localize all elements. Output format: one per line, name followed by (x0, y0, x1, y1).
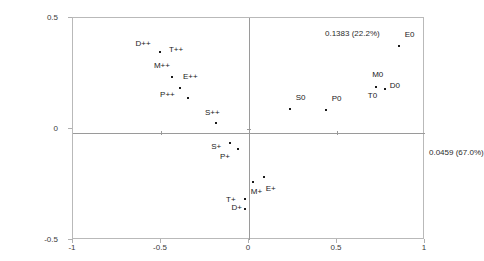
data-point-label-dplusplus: D++ (135, 39, 150, 48)
data-point-label-mplus: M+ (251, 187, 262, 196)
x-tick-label: 0 (246, 243, 250, 252)
y-tick-label: 0 (0, 124, 64, 133)
x-tick-inner (337, 131, 338, 135)
y-axis-annotation: 0.1383 (22.2%) (325, 29, 380, 38)
y-tick-label: -0.5 (0, 235, 64, 244)
data-point-e0 (398, 45, 400, 47)
data-point-label-splusplus: S++ (205, 108, 220, 117)
data-point-splus (229, 142, 231, 144)
data-point-t0 (375, 86, 377, 88)
plot-area: D++T++M++E++P++S++S+P+M+E+T+D+S0P0M0T0D0… (72, 17, 424, 239)
y-tick-label: 0.5 (0, 13, 64, 22)
data-point-label-eplusplus: E++ (183, 72, 198, 81)
data-point-label-mplusplus: M++ (154, 61, 170, 70)
data-point-tplus (244, 198, 246, 200)
data-point-label-pplus: P+ (220, 152, 230, 161)
x-tick-inner (249, 131, 250, 135)
x-tick-label: -0.5 (153, 243, 167, 252)
data-point-label-m0: M0 (372, 70, 383, 79)
data-point-label-eplus: E+ (266, 184, 276, 193)
data-point-pplusplus (187, 97, 189, 99)
y-tick-mark (68, 128, 72, 129)
data-point-label-tplusplus: T++ (169, 45, 183, 54)
y-tick-mark (68, 17, 72, 18)
data-point-label-t0: T0 (368, 91, 377, 100)
data-point-pplus (237, 148, 239, 150)
data-point-label-splus: S+ (211, 142, 221, 151)
data-point-eplusplus (179, 87, 181, 89)
data-point-mplusplus (171, 76, 173, 78)
data-point-splusplus (215, 122, 217, 124)
data-point-d0 (384, 88, 386, 90)
data-point-label-e0: E0 (405, 30, 415, 39)
data-point-label-d0: D0 (390, 81, 400, 90)
data-point-mplus (252, 181, 254, 183)
data-point-eplus (263, 176, 265, 178)
x-tick-inner (161, 131, 162, 135)
y-tick-inner (247, 129, 251, 130)
data-point-label-pplusplus: P++ (160, 90, 175, 99)
data-point-label-p0: P0 (332, 94, 342, 103)
x-tick-label: -1 (68, 243, 75, 252)
y-tick-mark (68, 239, 72, 240)
data-point-s0 (289, 108, 291, 110)
data-point-p0 (325, 109, 327, 111)
x-tick-label: 0.5 (330, 243, 341, 252)
data-point-dplus (244, 208, 246, 210)
x-tick-label: 1 (422, 243, 426, 252)
data-point-label-dplus: D+ (231, 203, 241, 212)
data-point-label-s0: S0 (296, 93, 306, 102)
x-axis-annotation: 0.0459 (67.0%) (429, 148, 484, 157)
data-point-tplusplus (159, 51, 161, 53)
